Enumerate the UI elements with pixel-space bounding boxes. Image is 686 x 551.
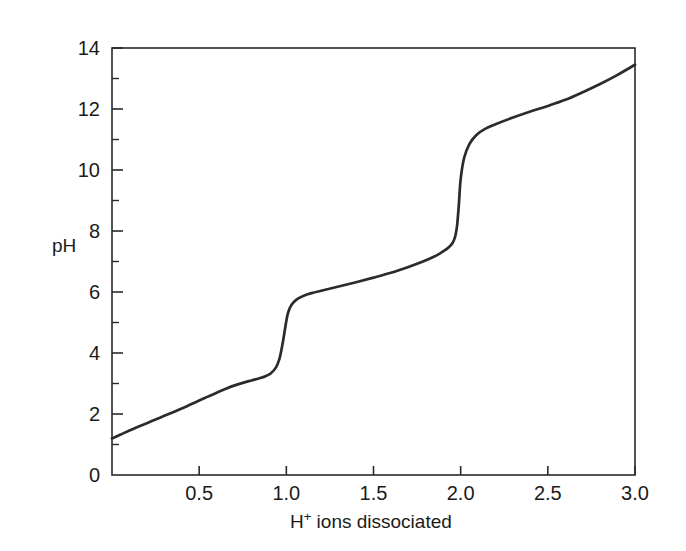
y-axis-ticks — [112, 48, 123, 445]
data-series-line — [112, 65, 635, 439]
y-tick-label-2: 2 — [89, 403, 100, 425]
x-tick-label-1.0: 1.0 — [272, 482, 300, 504]
x-tick-label-1.5: 1.5 — [360, 482, 388, 504]
y-axis-tick-labels: 02468101214 — [78, 37, 100, 486]
x-tick-label-2.5: 2.5 — [534, 482, 562, 504]
y-tick-label-14: 14 — [78, 37, 100, 59]
y-tick-label-6: 6 — [89, 281, 100, 303]
y-tick-label-10: 10 — [78, 159, 100, 181]
titration-curve-chart: 0.51.01.52.02.53.0 02468101214 pH H+ ion… — [0, 0, 686, 551]
x-axis-tick-labels: 0.51.01.52.02.53.0 — [185, 482, 649, 504]
x-tick-label-3.0: 3.0 — [621, 482, 649, 504]
y-tick-label-0: 0 — [89, 464, 100, 486]
y-tick-label-8: 8 — [89, 220, 100, 242]
x-axis-title-rest: ions dissociated — [311, 511, 451, 532]
y-tick-label-12: 12 — [78, 98, 100, 120]
x-axis-title-base: H — [290, 511, 304, 532]
series-line-0 — [112, 65, 635, 439]
x-axis-title: H+ ions dissociated — [290, 509, 452, 532]
y-axis-title: pH — [52, 235, 76, 256]
x-axis-title-superscript: + — [304, 509, 312, 524]
plot-frame — [112, 48, 635, 475]
x-tick-label-0.5: 0.5 — [185, 482, 213, 504]
chart-figure: 0.51.01.52.02.53.0 02468101214 pH H+ ion… — [0, 0, 686, 551]
x-tick-label-2.0: 2.0 — [447, 482, 475, 504]
x-axis-ticks — [199, 466, 635, 475]
y-tick-label-4: 4 — [89, 342, 100, 364]
plot-border — [112, 48, 635, 475]
